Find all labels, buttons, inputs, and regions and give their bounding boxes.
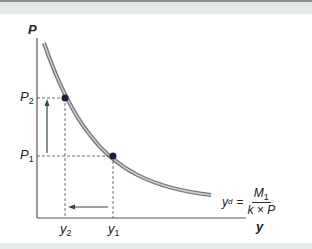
- demand-curve: [44, 43, 211, 195]
- point-p2: [62, 95, 69, 102]
- demand-equation: yd = M1 k × P: [222, 186, 275, 217]
- y1-label: y1: [108, 221, 120, 238]
- p1-label: P1: [20, 147, 34, 164]
- p-axis-label: P: [28, 22, 37, 37]
- y2-label: y2: [60, 221, 72, 238]
- point-p1: [110, 153, 117, 160]
- y-axis-label: y: [256, 219, 263, 234]
- p2-label: P2: [20, 89, 34, 106]
